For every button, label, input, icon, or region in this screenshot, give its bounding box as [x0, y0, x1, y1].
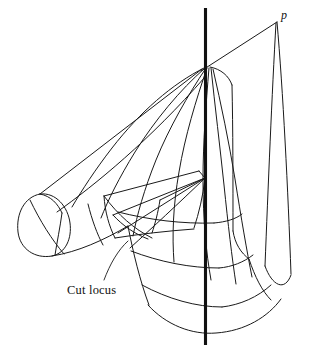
- p-to-right-band-outer: [277, 22, 291, 274]
- left-cap-inner-arc: [40, 194, 62, 213]
- right-panel-lower: [233, 231, 249, 259]
- figure-container: Cut locus p: [0, 0, 310, 358]
- cut-locus-label: Cut locus: [67, 283, 116, 298]
- left-lobe-bottom: [52, 226, 128, 256]
- upper-right-ridge: [201, 22, 277, 71]
- fan-curve-2: [101, 68, 205, 218]
- flap-bottom-arc: [115, 229, 194, 238]
- right-panel-edge: [232, 85, 233, 231]
- latitude-curve-3: [142, 285, 222, 307]
- bottom-boundary-arc: [148, 299, 281, 333]
- cut-locus-vertex-line: [130, 178, 205, 248]
- latitude-curve-6: [222, 285, 271, 307]
- fan-curve-3: [133, 68, 206, 236]
- flap-crease-3: [160, 178, 205, 200]
- surface-strokes: [18, 22, 291, 333]
- right-band-bottom-cap: [265, 266, 291, 285]
- flap-crease-1: [113, 178, 205, 215]
- flap-crease-4: [152, 200, 160, 233]
- left-lobe-rule-2: [55, 213, 62, 255]
- left-cap-ellipse: [18, 194, 71, 257]
- cut-locus-leader: [104, 241, 128, 280]
- left-lobe-rule-3: [88, 204, 103, 245]
- p-to-right-band-inner: [265, 23, 276, 266]
- latitude-curve-1: [118, 212, 214, 223]
- flap-outer-left-edge: [104, 171, 199, 196]
- point-p-label: p: [281, 8, 287, 23]
- fan-curve-4: [173, 68, 207, 262]
- cut-locus-diagram: [0, 0, 310, 358]
